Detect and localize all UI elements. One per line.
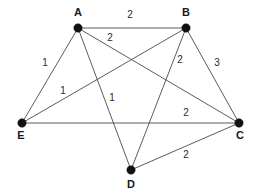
edges-layer (22, 28, 239, 170)
node-label-c: C (236, 129, 244, 141)
node-c (235, 119, 243, 127)
node-label-a: A (74, 6, 82, 18)
edge-a-c (78, 28, 239, 123)
edge-weight-a-c: 2 (107, 32, 113, 43)
edge-a-e (22, 28, 78, 123)
node-d (127, 166, 135, 174)
node-label-e: E (17, 129, 24, 141)
edge-d-c (131, 123, 239, 170)
graph-diagram: 221112322 ABCDE (0, 0, 262, 194)
edge-b-d (131, 28, 186, 170)
node-label-b: B (182, 6, 190, 18)
node-b (182, 24, 190, 32)
edge-weight-b-d: 2 (177, 54, 183, 65)
node-a (74, 24, 82, 32)
nodes-layer (18, 24, 243, 174)
edge-weight-a-d: 1 (109, 92, 115, 103)
edge-b-e (22, 28, 186, 123)
edge-weight-d-c: 2 (183, 149, 189, 160)
node-labels-layer: ABCDE (17, 6, 244, 190)
edge-weight-a-e: 1 (42, 57, 48, 68)
edge-weight-a-b: 2 (127, 9, 133, 20)
node-e (18, 119, 26, 127)
edge-b-c (186, 28, 239, 123)
node-label-d: D (127, 178, 135, 190)
edge-weight-b-e: 1 (60, 85, 66, 96)
edge-weight-e-c: 2 (183, 107, 189, 118)
edge-weight-b-c: 3 (214, 57, 220, 68)
graph-canvas: 221112322 ABCDE (0, 0, 262, 194)
edge-a-d (78, 28, 131, 170)
edge-weights-layer: 221112322 (42, 9, 220, 160)
